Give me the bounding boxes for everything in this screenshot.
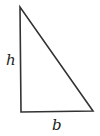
height-label: h	[6, 51, 16, 69]
base-label: b	[52, 116, 62, 134]
right-triangle	[20, 7, 93, 112]
triangle-diagram: h b	[0, 0, 100, 136]
